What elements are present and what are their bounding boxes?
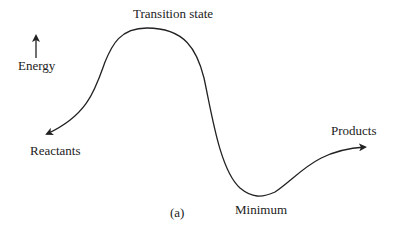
energy-diagram — [0, 0, 400, 239]
minimum-label: Minimum — [235, 202, 287, 218]
energy-axis-label: Energy — [18, 58, 55, 74]
products-curve — [147, 28, 365, 196]
reactants-label: Reactants — [30, 143, 81, 159]
transition-state-label: Transition state — [133, 6, 213, 22]
caption-label: (a) — [170, 205, 184, 221]
products-label: Products — [331, 123, 377, 139]
reactants-curve — [47, 28, 147, 134]
